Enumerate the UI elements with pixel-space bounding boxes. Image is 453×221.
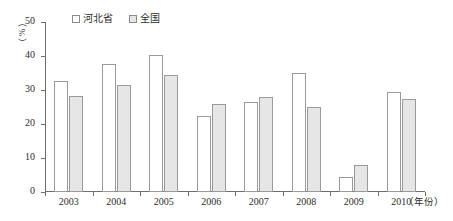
bar-2004-national[interactable]	[117, 85, 131, 192]
y-tick-label-30: 30	[25, 83, 35, 95]
x-axis-label-2008: 2008	[283, 196, 331, 208]
x-axis-label-2004: 2004	[93, 196, 141, 208]
x-axis-label-2003: 2003	[45, 196, 93, 208]
y-tick-30: 30	[41, 90, 46, 91]
x-axis-title: （年份）	[404, 196, 444, 208]
bar-2008-hebei[interactable]	[292, 73, 306, 192]
y-tick-label-0: 0	[30, 185, 35, 197]
y-tick-label-20: 20	[25, 117, 35, 129]
y-tick-label-40: 40	[25, 49, 35, 61]
bar-2005-national[interactable]	[164, 75, 178, 192]
x-axis-label-2007: 2007	[235, 196, 283, 208]
bar-2006-national[interactable]	[212, 104, 226, 192]
y-tick-20: 20	[41, 124, 46, 125]
y-tick-label-50: 50	[25, 15, 35, 27]
bar-2007-hebei[interactable]	[244, 102, 258, 192]
bar-2004-hebei[interactable]	[102, 64, 116, 192]
x-axis-label-2005: 2005	[140, 196, 188, 208]
bar-2007-national[interactable]	[259, 97, 273, 192]
bar-2003-national[interactable]	[69, 96, 83, 192]
x-axis-label-2009: 2009	[330, 196, 378, 208]
bar-2010-hebei[interactable]	[387, 92, 401, 192]
bar-2009-hebei[interactable]	[339, 177, 353, 192]
bar-chart: 河北省 全国 （ % ） 01020304050 200320042005200…	[0, 0, 453, 221]
bar-2010-national[interactable]	[402, 99, 416, 192]
x-axis-label-2006: 2006	[188, 196, 236, 208]
y-tick-40: 40	[41, 56, 46, 57]
plot-area: 01020304050 2003200420052006200720082009…	[45, 22, 425, 192]
bar-2003-hebei[interactable]	[54, 81, 68, 192]
bar-2008-national[interactable]	[307, 107, 321, 192]
y-unit-close-paren: ）	[17, 36, 26, 50]
y-tick-10: 10	[41, 158, 46, 159]
bar-2009-national[interactable]	[354, 165, 368, 192]
y-tick-50: 50	[41, 22, 46, 23]
bar-2005-hebei[interactable]	[149, 55, 163, 192]
y-tick-label-10: 10	[25, 151, 35, 163]
y-axis-line	[45, 22, 46, 192]
bar-2006-hebei[interactable]	[197, 116, 211, 192]
